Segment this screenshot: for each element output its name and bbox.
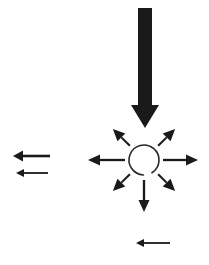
incoming-arrow-shaft bbox=[138, 8, 152, 105]
canvas-background bbox=[0, 0, 209, 265]
diagram-svg bbox=[0, 0, 209, 265]
diagram-canvas: A single heavy downward arrow impinges o… bbox=[0, 0, 209, 265]
